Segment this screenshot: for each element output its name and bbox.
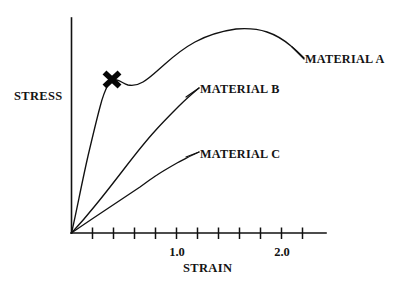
series-label-material-c: MATERIAL C [200,147,280,162]
series-label-material-b: MATERIAL B [200,82,280,97]
curve-material-b [72,88,200,233]
x-axis-title: STRAIN [183,261,232,276]
x-tick-label-1-0: 1.0 [169,245,185,259]
x-tick-label-2-0: 2.0 [274,245,290,259]
stress-strain-figure: 1.0 2.0 STRESS STRAIN MATERIAL A MATERIA… [0,0,407,293]
leader-line-material-b [186,88,199,97]
y-axis-title: STRESS [14,89,63,104]
leader-line-material-a [292,47,304,59]
leader-line-material-c [186,152,199,157]
curve-material-a [72,29,305,233]
curve-material-c [72,152,200,233]
series-label-material-a: MATERIAL A [305,52,385,67]
